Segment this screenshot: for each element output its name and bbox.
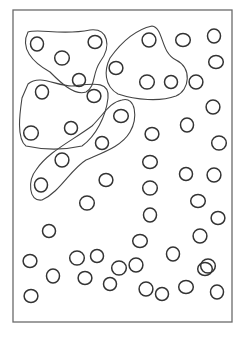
circle (143, 181, 158, 195)
circle (133, 235, 148, 248)
circle (209, 56, 224, 69)
circle (145, 128, 159, 141)
circle (96, 137, 109, 150)
circle (129, 258, 143, 272)
circle (88, 36, 102, 49)
circle (104, 278, 117, 291)
group-outline-middle-left (20, 80, 109, 149)
circle (36, 85, 49, 99)
circle (24, 290, 38, 303)
circle (212, 136, 227, 150)
circle (211, 285, 224, 299)
circle (87, 90, 101, 103)
circle (144, 208, 157, 222)
diagram-svg (0, 0, 252, 337)
circle (78, 272, 92, 285)
circle (139, 282, 153, 296)
circle (73, 74, 86, 87)
circle (201, 259, 216, 273)
diagram-canvas (0, 0, 252, 337)
circle (70, 251, 85, 265)
circle (43, 225, 56, 238)
circle (207, 168, 221, 182)
circle (99, 174, 113, 187)
circle (143, 156, 158, 169)
circle (191, 195, 206, 208)
circle (211, 212, 225, 225)
circle (140, 75, 155, 89)
circle (65, 122, 78, 135)
circle (181, 118, 194, 132)
circle (47, 269, 60, 283)
circle (176, 34, 191, 47)
circle (55, 153, 69, 167)
circle (142, 33, 156, 47)
circle (198, 263, 213, 276)
group-outline-diagonal (31, 100, 135, 201)
circle (193, 229, 207, 243)
circle (80, 196, 95, 210)
circle (179, 281, 194, 294)
circle (156, 288, 169, 301)
circle (24, 126, 39, 140)
circle (35, 178, 48, 192)
circle (55, 51, 70, 65)
group-outline-top-left (25, 30, 106, 93)
circle (31, 37, 44, 51)
circle (114, 110, 129, 123)
circle (109, 62, 123, 75)
circle (206, 100, 220, 114)
circle (23, 255, 37, 268)
circle-set (23, 29, 226, 303)
circle (180, 168, 193, 181)
circle (189, 75, 203, 89)
circle (208, 29, 221, 43)
circle (165, 76, 178, 89)
circle (167, 247, 180, 261)
circle (112, 261, 127, 275)
circle (91, 250, 104, 263)
